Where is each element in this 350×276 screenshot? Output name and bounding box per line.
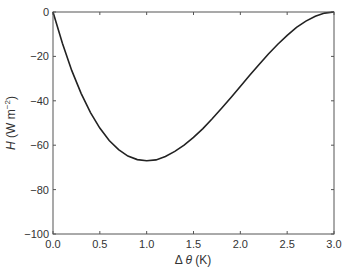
x-tick-label: 2.0 bbox=[233, 238, 248, 250]
line-chart: 0.00.51.01.52.02.53.00−20−40−60−80−100 Δ… bbox=[0, 0, 350, 276]
plot-frame bbox=[53, 12, 334, 234]
data-line bbox=[53, 12, 334, 161]
y-tick-label: 0 bbox=[43, 6, 49, 18]
x-tick-label: 3.0 bbox=[326, 238, 341, 250]
y-tick-label: −100 bbox=[24, 228, 49, 240]
axis-ticks: 0.00.51.01.52.02.53.00−20−40−60−80−100 bbox=[24, 6, 341, 250]
x-tick-label: 1.0 bbox=[139, 238, 154, 250]
x-tick-label: 1.5 bbox=[186, 238, 201, 250]
y-tick-label: −40 bbox=[30, 95, 49, 107]
y-tick-label: −80 bbox=[30, 184, 49, 196]
y-axis-label: H (W m−2) bbox=[3, 96, 18, 150]
x-axis-label: Δ θ (K) bbox=[175, 253, 212, 267]
y-tick-label: −20 bbox=[30, 50, 49, 62]
y-tick-label: −60 bbox=[30, 139, 49, 151]
x-tick-label: 0.5 bbox=[92, 238, 107, 250]
x-tick-label: 2.5 bbox=[280, 238, 295, 250]
